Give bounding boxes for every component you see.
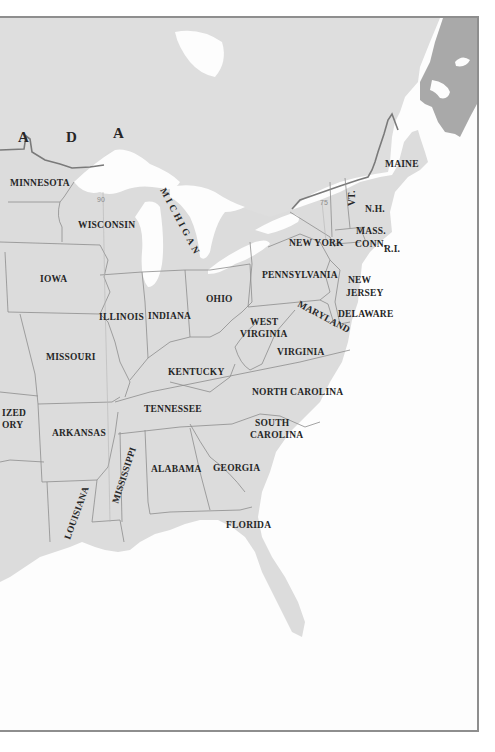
label-connecticut: CONN. <box>355 239 386 249</box>
country-letter-a2: A <box>113 125 124 141</box>
label-ohio: OHIO <box>206 294 233 304</box>
label-pennsylvania: PENNSYLVANIA <box>262 270 338 280</box>
label-unorganized-territory-2: ORY <box>2 420 23 430</box>
label-minnesota: MINNESOTA <box>10 178 70 188</box>
label-unorganized-territory-1: IZED <box>2 408 26 418</box>
label-vermont: VT. <box>347 191 357 206</box>
country-letter-d: D <box>66 129 77 145</box>
map-frame: A D A 90 75 MINNESOTA WISCONSIN MICHIGAN… <box>0 16 479 732</box>
label-florida: FLORIDA <box>226 520 271 530</box>
label-north-carolina: NORTH CAROLINA <box>252 387 343 397</box>
label-new-jersey-1: NEW <box>348 275 372 285</box>
meridian-90-label: 90 <box>97 196 105 203</box>
label-tennessee: TENNESSEE <box>144 404 202 414</box>
label-georgia: GEORGIA <box>213 463 260 473</box>
label-south-carolina-2: CAROLINA <box>250 430 303 440</box>
label-new-york: NEW YORK <box>289 238 344 248</box>
label-iowa: IOWA <box>40 274 67 284</box>
label-south-carolina-1: SOUTH <box>255 418 290 428</box>
label-delaware: DELAWARE <box>338 309 393 319</box>
label-west-virginia-1: WEST <box>250 317 279 327</box>
label-new-hampshire: N.H. <box>365 204 385 214</box>
label-massachusetts: MASS. <box>356 226 386 236</box>
label-kentucky: KENTUCKY <box>168 367 225 377</box>
meridian-75-label: 75 <box>320 199 328 206</box>
eastern-us-map: A D A 90 75 MINNESOTA WISCONSIN MICHIGAN… <box>0 18 479 732</box>
label-maine: MAINE <box>385 159 419 169</box>
label-missouri: MISSOURI <box>46 352 96 362</box>
label-west-virginia-2: VIRGINIA <box>240 329 288 339</box>
label-wisconsin: WISCONSIN <box>78 220 135 230</box>
country-letter-a1: A <box>18 129 29 145</box>
label-virginia: VIRGINIA <box>277 347 325 357</box>
label-arkansas: ARKANSAS <box>52 428 106 438</box>
label-indiana: INDIANA <box>148 311 191 321</box>
label-new-jersey-2: JERSEY <box>346 288 384 298</box>
label-illinois: ILLINOIS <box>99 312 144 322</box>
label-rhode-island: R.I. <box>384 244 400 254</box>
label-alabama: ALABAMA <box>151 464 201 474</box>
